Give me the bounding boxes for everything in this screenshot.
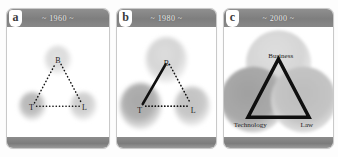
panel-b-diagram: B T L [117,27,216,137]
circle-law [70,92,97,121]
panel-c-title: ~ 2000 ~ [263,14,295,23]
panel-b: b ~ 1980 ~ [116,8,217,149]
panel-b-body: B T L [117,27,216,137]
panel-a-diagram: B T L [7,27,109,137]
panel-a-circles [19,46,97,121]
panel-c-letter-badge: c [226,10,239,27]
panel-c-header: c ~ 2000 ~ [224,9,333,27]
panel-a-letter-badge: a [9,10,22,27]
panel-c-body: Business Technology Law [224,27,333,137]
panel-b-footer [117,137,216,148]
circle-business [45,46,72,75]
panel-a-body: B T L [7,27,109,137]
panel-a-footer [7,137,109,148]
panel-a-svg [7,27,109,137]
panel-b-title: ~ 1980 ~ [151,14,183,23]
panel-a-title: ~ 1960 ~ [42,14,74,23]
circle-business [146,37,188,83]
panel-b-circles [120,37,210,129]
panel-b-letter-badge: b [119,10,132,27]
circle-technology [19,92,46,121]
panel-c-diagram: Business Technology Law [224,27,333,137]
panel-a-header: a ~ 1960 ~ [7,9,109,27]
panel-c-footer [224,137,333,148]
panel-b-header: b ~ 1980 ~ [117,9,216,27]
panel-c: c ~ 2000 ~ [223,8,334,149]
panel-a: a ~ 1960 ~ [6,8,110,149]
convergence-figure: a ~ 1960 ~ [0,0,338,157]
panel-c-svg [224,27,333,137]
panel-b-svg [117,27,216,137]
